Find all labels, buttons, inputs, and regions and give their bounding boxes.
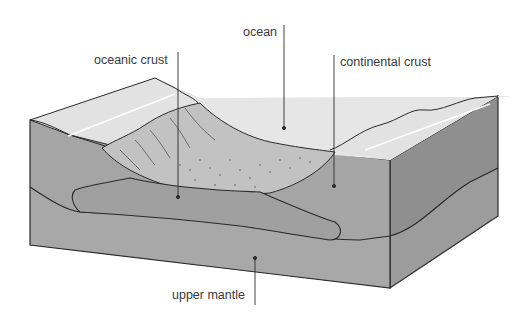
label-oceanic-crust: oceanic crust	[94, 53, 168, 67]
label-continental-crust: continental crust	[340, 55, 431, 69]
ocean-basin-block-diagram	[0, 0, 523, 323]
label-ocean: ocean	[243, 25, 277, 39]
label-upper-mantle: upper mantle	[172, 288, 245, 302]
